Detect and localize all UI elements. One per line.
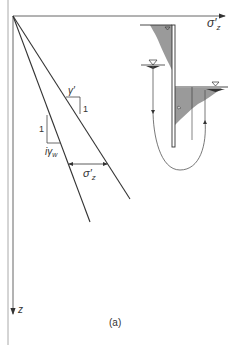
sigma-axis-label: σ′z (207, 16, 221, 32)
gamma-prime-label: γ′ (68, 85, 76, 96)
z-axis-label: z (17, 304, 23, 315)
slope-lower-rise-label: 1 (39, 124, 44, 134)
effective-stress-diagram: σ′z z γ′ 1 1 iγw σ′z (0, 0, 241, 345)
slope-triangle-upper (66, 97, 80, 114)
i-gamma-w-label: iγw (45, 146, 58, 158)
panel-label: (a) (109, 317, 121, 328)
downstream-shading (175, 88, 222, 125)
sheet-pile-wall (172, 25, 175, 147)
sigma-dimension-label: σ′z (83, 167, 96, 182)
slope-triangle-lower (47, 115, 60, 143)
upstream-shading (150, 25, 172, 70)
slope-upper-rise-label: 1 (83, 104, 88, 114)
sheet-pile-inset (140, 25, 228, 170)
